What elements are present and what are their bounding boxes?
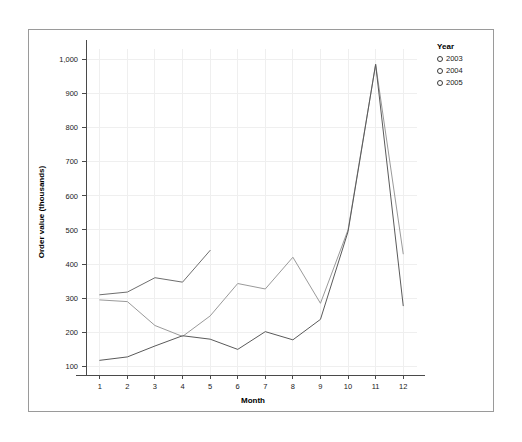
series-line-2004 <box>100 64 403 336</box>
legend-title: Year <box>437 42 495 51</box>
y-tick-label: 200 <box>65 328 78 337</box>
x-tick-label: 12 <box>399 382 407 391</box>
legend-entries: 200320042005 <box>437 53 495 88</box>
y-tick-label: 900 <box>65 89 78 98</box>
circle-outline-icon <box>437 56 443 62</box>
y-tick-label: 800 <box>65 123 78 132</box>
x-tick-label: 3 <box>153 382 157 391</box>
axis-ticks <box>82 59 403 379</box>
x-tick-label: 7 <box>263 382 267 391</box>
x-tick-label: 2 <box>125 382 129 391</box>
x-tick-label: 1 <box>98 382 102 391</box>
legend-entry-2003[interactable]: 2003 <box>437 53 495 64</box>
axis-tick-labels: 1002003004005006007008009001,00012345678… <box>59 55 407 391</box>
gridlines <box>86 49 417 375</box>
y-axis-title: Order value (thousands) <box>37 165 46 258</box>
legend-entry-label: 2004 <box>446 66 463 75</box>
y-tick-label: 400 <box>65 260 78 269</box>
x-tick-label: 10 <box>344 382 352 391</box>
x-axis-title: Month <box>241 396 265 405</box>
x-tick-label: 4 <box>180 382 184 391</box>
chart-figure: 1002003004005006007008009001,00012345678… <box>0 0 522 442</box>
x-tick-label: 6 <box>236 382 240 391</box>
y-tick-label: 100 <box>65 362 78 371</box>
axes <box>76 40 425 375</box>
legend-entry-2005[interactable]: 2005 <box>437 77 495 88</box>
circle-outline-icon <box>437 68 443 74</box>
y-tick-label: 500 <box>65 226 78 235</box>
x-tick-label: 8 <box>291 382 295 391</box>
x-tick-label: 5 <box>208 382 212 391</box>
x-tick-label: 9 <box>318 382 322 391</box>
data-series <box>100 64 403 360</box>
series-line-2005 <box>100 64 403 360</box>
y-tick-label: 600 <box>65 192 78 201</box>
legend-entry-2004[interactable]: 2004 <box>437 65 495 76</box>
circle-outline-icon <box>437 80 443 86</box>
y-tick-label: 700 <box>65 157 78 166</box>
legend-entry-label: 2003 <box>446 54 463 63</box>
y-tick-label: 300 <box>65 294 78 303</box>
x-tick-label: 11 <box>372 382 380 391</box>
chart-legend: Year 200320042005 <box>437 42 495 88</box>
y-tick-label: 1,000 <box>59 55 78 64</box>
legend-entry-label: 2005 <box>446 78 463 87</box>
